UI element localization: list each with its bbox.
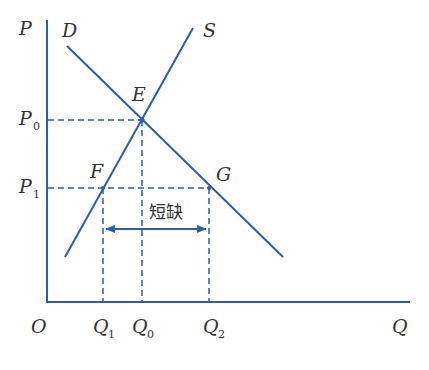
p0-tick-label: P 0 <box>18 107 40 133</box>
origin-label: O <box>31 315 47 337</box>
svg-text:1: 1 <box>108 328 115 341</box>
point-g-marker <box>207 186 211 190</box>
p1-tick-label: P 1 <box>18 175 40 201</box>
demand-curve <box>67 46 283 257</box>
q0-tick-label: Q 0 <box>132 315 154 341</box>
point-g-label: G <box>216 163 231 185</box>
svg-text:0: 0 <box>147 328 154 341</box>
shortage-label: 短缺 <box>149 202 183 222</box>
svg-text:P: P <box>18 175 33 197</box>
point-e-label: E <box>131 83 146 105</box>
supply-demand-diagram: P Q O D S E F G P 0 P 1 Q 1 Q 0 Q 2 短缺 <box>0 0 429 370</box>
svg-text:0: 0 <box>33 120 40 133</box>
q1-tick-label: Q 1 <box>93 315 115 341</box>
point-e-marker <box>140 118 145 123</box>
svg-text:P: P <box>18 107 33 129</box>
supply-label: S <box>203 19 216 41</box>
demand-label: D <box>61 19 77 41</box>
point-f-label: F <box>89 160 104 182</box>
svg-text:Q: Q <box>132 315 148 337</box>
diagram-canvas: P Q O D S E F G P 0 P 1 Q 1 Q 0 Q 2 短缺 <box>0 0 429 370</box>
x-axis-label: Q <box>392 315 408 337</box>
svg-text:Q: Q <box>93 315 109 337</box>
svg-text:2: 2 <box>218 328 225 341</box>
y-axis-label: P <box>18 17 33 39</box>
svg-text:Q: Q <box>203 315 219 337</box>
q2-tick-label: Q 2 <box>203 315 225 341</box>
point-f-marker <box>101 186 105 190</box>
svg-text:1: 1 <box>33 188 40 201</box>
